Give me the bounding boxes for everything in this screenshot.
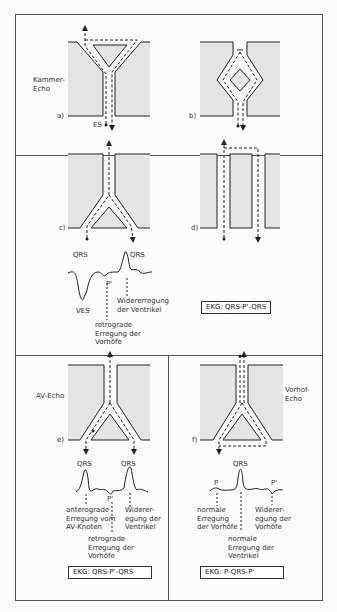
- panel-a-es-marker: ES: [93, 121, 102, 130]
- panel-c-label: c): [59, 224, 66, 233]
- ecg-f-p-prime: P': [271, 479, 277, 488]
- panel-e-side-label: AV-Echo: [36, 392, 64, 401]
- panel-f-side-label: Vorhof- Echo: [285, 386, 310, 403]
- ecg-e-formula-box: EKG: QRS-P'-QRS: [68, 566, 152, 579]
- ecg-cd-widererregung: Widererregung der Ventrikel: [117, 297, 169, 314]
- ecg-e-retrograde: retrograde Erregung der Vorhöfe: [88, 535, 134, 561]
- ecg-cd-formula-box: EKG: QRS-P'-QRS: [201, 301, 271, 314]
- ecg-e-p-prime: P': [107, 495, 113, 504]
- ecg-e-qrs2: QRS: [121, 460, 136, 469]
- ecg-cd-retrograde: retrograde Erregung der Vorhöfe: [95, 321, 141, 347]
- panel-a-label: a): [57, 112, 64, 121]
- ecg-f-widererregung: Widerer- egung der Vorhöfe: [255, 506, 291, 532]
- ecg-cd-p-prime: P': [106, 280, 112, 289]
- ecg-f-normale-vorhoefe: normale Erregung der Vorhöfe: [197, 506, 238, 532]
- ecg-f-p: P: [214, 479, 218, 488]
- ecg-cd-qrs1: QRS: [73, 251, 88, 260]
- panel-f-label: f): [192, 436, 197, 445]
- ecg-f-normale-ventrikel: normale Erregung der Ventrikel: [228, 535, 274, 561]
- ecg-e-widererregung: Widerer- egung der Ventrikel: [125, 506, 161, 532]
- ecg-e-qrs1: QRS: [77, 460, 92, 469]
- panel-e-label: e): [57, 436, 64, 445]
- ecg-e-anterograde: anterograde Erregung vom AV-Knoten: [66, 506, 115, 532]
- panel-a-side-label: Kammer- Echo: [33, 76, 65, 93]
- ecg-f-qrs: QRS: [233, 460, 248, 469]
- ecg-cd-ves: VES: [76, 307, 90, 316]
- panel-d-label: d): [191, 224, 198, 233]
- ecg-f-formula-box: EKG: P-QRS-P': [200, 566, 284, 579]
- panel-b-label: b): [189, 112, 196, 121]
- ecg-cd-qrs2: QRS: [130, 251, 145, 260]
